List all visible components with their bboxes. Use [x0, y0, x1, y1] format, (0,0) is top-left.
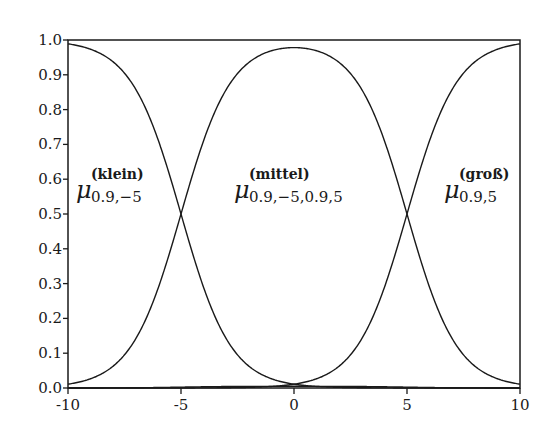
label-klein: μ (klein) 0.9,−5: [76, 176, 92, 204]
y-tick-label: 0.5: [38, 205, 62, 223]
x-tick-label: -10: [56, 396, 80, 414]
y-tick-label: 0.8: [38, 101, 62, 119]
curve-klein: [68, 44, 520, 388]
label-gross-sup: (groß): [459, 166, 509, 182]
mu-symbol: μ: [76, 176, 92, 204]
y-tick-label: 0.6: [38, 170, 62, 188]
plot-area: 0.00.10.20.30.40.50.60.70.80.91.0-10-505…: [0, 0, 555, 435]
label-klein-sup: (klein): [91, 166, 144, 182]
plot-frame: [68, 40, 520, 388]
curves: [68, 44, 520, 388]
label-gross: μ (groß) 0.9,5: [444, 176, 460, 204]
y-tick-label: 0.0: [38, 379, 62, 397]
y-tick-label: 0.9: [38, 66, 62, 84]
mu-symbol: μ: [234, 176, 250, 204]
y-tick-label: 0.3: [38, 275, 62, 293]
curve-groß: [68, 44, 520, 388]
label-mittel-sub: 0.9,−5,0.9,5: [249, 188, 343, 206]
label-gross-sub: 0.9,5: [459, 188, 497, 206]
y-tick-label: 0.2: [38, 309, 62, 327]
label-mittel: μ (mittel) 0.9,−5,0.9,5: [234, 176, 250, 204]
y-tick-label: 0.4: [38, 240, 62, 258]
label-mittel-sup: (mittel): [249, 166, 310, 182]
mu-symbol: μ: [444, 176, 460, 204]
x-tick-label: 0: [289, 396, 299, 414]
x-tick-label: 5: [402, 396, 412, 414]
x-tick-label: 10: [510, 396, 529, 414]
y-tick-label: 0.1: [38, 344, 62, 362]
y-tick-label: 1.0: [38, 31, 62, 49]
axis-ticks: 0.00.10.20.30.40.50.60.70.80.91.0-10-505…: [38, 31, 529, 414]
y-tick-label: 0.7: [38, 135, 62, 153]
label-klein-sub: 0.9,−5: [91, 188, 142, 206]
curve-mittel: [68, 48, 520, 385]
x-tick-label: -5: [174, 396, 189, 414]
